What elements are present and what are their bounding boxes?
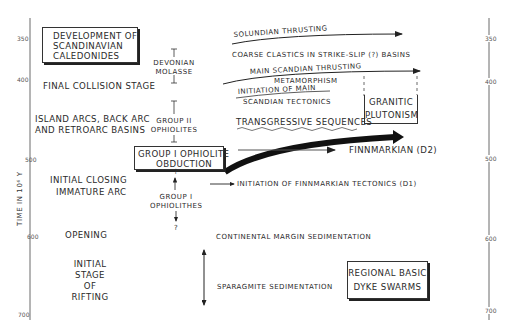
event-coarse-clastics: COARSE CLASTICS IN STRIKE-SLIP (?) BASIN…: [232, 52, 410, 59]
granitic-line-2: PLUTONISM: [365, 111, 417, 120]
tick-left-400: 400: [17, 76, 28, 83]
stage-final-collision: FINAL COLLISION STAGE: [43, 82, 155, 91]
event-sparagmite: SPARAGMITE SEDIMENTATION: [217, 284, 333, 291]
group2-ophiolites-1: GROUP II: [150, 118, 198, 125]
title-line-1: DEVELOPMENT OF: [53, 32, 137, 41]
obduction-box: GROUP I OPHIOLITE OBDUCTION: [134, 146, 224, 170]
title-line-2: SCANDINAVIAN: [53, 42, 123, 51]
event-finnmarkian-d1: INITIATION OF FINNMARKIAN TECTONICS (D1): [237, 181, 417, 188]
stage-rifting-4: RIFTING: [70, 293, 110, 302]
stage-opening: OPENING: [65, 231, 107, 240]
obduction-line-1: GROUP I OPHIOLITE: [138, 150, 229, 159]
dyke-line-1: REGIONAL BASIC: [348, 269, 427, 278]
tick-right-400: 400: [485, 78, 496, 85]
stage-island-arcs-1: ISLAND ARCS, BACK ARC: [35, 115, 150, 124]
title-box: DEVELOPMENT OF SCANDINAVIAN CALEDONIDES: [42, 27, 138, 63]
stage-initial-closing-1: INITIAL CLOSING: [50, 176, 127, 185]
tick-right-500: 500: [485, 155, 496, 162]
tick-right-600: 600: [485, 235, 496, 242]
group1-ophiolithes-1: GROUP I: [150, 194, 202, 201]
question-mark-lower: ?: [174, 225, 178, 232]
event-scandian-tectonics: SCANDIAN TECTONICS: [243, 99, 331, 106]
group2-ophiolites-2: OPHIOLITES: [150, 127, 198, 134]
event-continental-margin: CONTINENTAL MARGIN SEDIMENTATION: [216, 234, 371, 241]
dyke-line-2: DYKE SWARMS: [348, 283, 427, 292]
granitic-line-1: GRANITIC: [365, 98, 417, 107]
tick-right-700: 700: [485, 307, 496, 314]
stage-rifting-3: OF: [70, 282, 110, 291]
group1-ophiolithes-2: OPHIOLITHES: [150, 203, 202, 210]
granitic-plutonism-box: GRANITIC PLUTONISM: [364, 95, 418, 124]
tick-left-700: 700: [18, 311, 29, 318]
devonian-molasse-1: DEVONIAN: [150, 60, 198, 67]
stage-rifting-2: STAGE: [70, 271, 110, 280]
tick-right-350: 350: [485, 35, 496, 42]
obduction-line-2: OBDUCTION: [156, 160, 212, 169]
y-axis-label: TIME IN 10⁶ Y: [16, 171, 24, 226]
title-line-3: CALEDONIDES: [53, 52, 119, 61]
tick-left-350: 350: [17, 35, 28, 42]
stage-island-arcs-2: AND RETROARC BASINS: [35, 126, 145, 135]
stage-initial-closing-2: IMMATURE ARC: [56, 188, 126, 197]
tick-left-600: 600: [27, 233, 38, 240]
dyke-swarms-box: REGIONAL BASIC DYKE SWARMS: [347, 261, 428, 299]
event-transgressive-sequences: TRANSGRESSIVE SEQUENCES: [236, 118, 372, 127]
tick-left-500: 500: [25, 156, 36, 163]
stage-rifting-1: INITIAL: [70, 260, 110, 269]
devonian-molasse-2: MOLASSE: [150, 69, 198, 76]
question-mark-upper: ?: [174, 169, 178, 176]
event-finnmarkian-d2: FINNMARKIAN (D2): [349, 146, 437, 155]
